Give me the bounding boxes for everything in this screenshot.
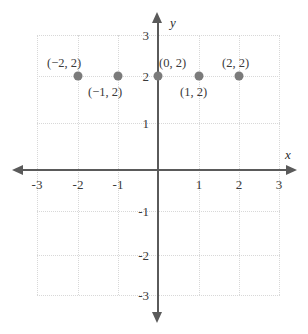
y-axis-arrow-down: [152, 312, 162, 323]
data-point: [74, 72, 83, 81]
y-axis-arrow-up: [152, 12, 162, 23]
y-tick-label: 2: [133, 70, 149, 83]
y-tick-label: -1: [128, 205, 149, 218]
coordinate-plane-chart: y x -3 -2 -1 1 2 3 3 2 1 -1 -2 -3 (−2, 2…: [0, 0, 308, 334]
data-point: [235, 72, 244, 81]
x-axis-line: [22, 169, 290, 171]
x-tick-label: -2: [73, 178, 84, 191]
x-tick-label: 3: [276, 178, 283, 191]
data-point-label: (2, 2): [222, 57, 249, 70]
gridline-vertical: [37, 35, 38, 295]
data-point-label: (0, 2): [159, 57, 186, 70]
y-tick-label: -3: [128, 289, 149, 302]
y-tick-label: -2: [128, 249, 149, 262]
data-point: [195, 72, 204, 81]
x-tick-label: -1: [113, 178, 124, 191]
x-tick-label: 1: [196, 178, 203, 191]
data-point: [154, 72, 163, 81]
x-axis-arrow-left: [12, 165, 23, 175]
data-point-label: (−2, 2): [47, 57, 81, 70]
x-axis-label: x: [285, 148, 291, 161]
y-tick-label: 1: [133, 117, 149, 130]
x-tick-label: 2: [236, 178, 243, 191]
y-axis-label: y: [170, 16, 176, 29]
data-point-label: (−1, 2): [88, 86, 122, 99]
data-point-label: (1, 2): [180, 86, 207, 99]
x-tick-label: -3: [32, 178, 43, 191]
x-axis-arrow-right: [286, 165, 297, 175]
y-tick-label: 3: [133, 29, 149, 42]
gridline-vertical: [279, 35, 280, 295]
data-point: [114, 72, 123, 81]
